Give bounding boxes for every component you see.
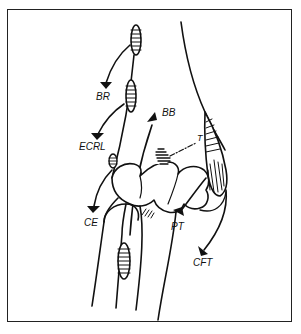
bb-arrowhead	[147, 112, 157, 122]
br-arrow	[106, 45, 130, 83]
ecrl-arrowhead	[91, 133, 104, 140]
radial-head	[104, 204, 139, 222]
label-t: T	[197, 134, 203, 143]
ce-arrow	[94, 170, 112, 206]
humerus-medial-border	[181, 22, 225, 150]
br-arrowhead	[100, 82, 112, 89]
t-attachment	[156, 146, 172, 164]
label-bb: BB	[162, 108, 175, 118]
label-ecrl: ECRL	[79, 142, 106, 152]
annular-ligament-hatch	[142, 209, 154, 218]
ce-arrowhead	[87, 206, 100, 213]
label-ce: CE	[84, 218, 98, 228]
ecrl-arrow	[98, 104, 124, 134]
label-br: BR	[96, 92, 110, 102]
br-origin	[131, 25, 141, 55]
radial-tuberosity-attachment	[118, 243, 130, 279]
t-leader-line	[170, 143, 196, 156]
ecrl-origin	[126, 80, 136, 112]
label-cft: CFT	[193, 258, 212, 268]
label-pt: PT	[171, 222, 184, 232]
radius-outline	[92, 198, 118, 306]
ulna-outline	[136, 206, 142, 310]
elbow-diagram	[0, 0, 301, 334]
